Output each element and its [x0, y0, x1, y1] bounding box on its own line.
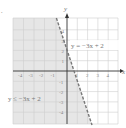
- svg-text:-3: -3: [59, 100, 64, 105]
- svg-text:-1: -1: [59, 80, 64, 85]
- boundary-label: y = −3x + 2: [71, 42, 104, 50]
- svg-text:-4: -4: [59, 110, 64, 115]
- svg-text:-3: -3: [29, 73, 34, 78]
- svg-text:-4: -4: [18, 73, 23, 78]
- svg-text:-2: -2: [39, 73, 44, 78]
- svg-text:-1: -1: [51, 73, 56, 78]
- svg-text:-2: -2: [59, 90, 64, 95]
- inequality-graph: . y x -4 -3 -2 -1 1: [0, 0, 126, 128]
- inequality-label: y ≤ −3x + 2: [8, 95, 41, 103]
